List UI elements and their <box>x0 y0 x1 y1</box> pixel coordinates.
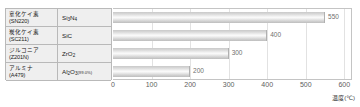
x-axis: 0100200300400500600 <box>113 80 352 92</box>
material-formula: Si3N4 <box>62 14 77 21</box>
material-formula-cell: SiC <box>58 27 111 44</box>
material-formula: ZrO2 <box>62 50 75 57</box>
plot-area: 550400300200 <box>113 8 352 80</box>
bar <box>113 48 229 59</box>
material-formula-cell: ZrO2 <box>58 45 111 62</box>
x-tick-label: 400 <box>261 81 273 88</box>
x-tick-label: 100 <box>146 81 158 88</box>
bar-value-label: 200 <box>193 67 204 74</box>
material-name-cell: ジルコニア (Z201N) <box>6 45 58 62</box>
bar-row: 300 <box>113 45 351 63</box>
bar-value-label: 550 <box>328 13 339 20</box>
bar <box>113 12 325 23</box>
x-tick-label: 500 <box>300 81 312 88</box>
bar-value-label: 300 <box>232 49 243 56</box>
material-name-line2: (SC211) <box>9 36 57 42</box>
x-tick-label: 300 <box>223 81 235 88</box>
material-name-line2: (Z201N) <box>9 54 57 60</box>
x-tick-label: 0 <box>111 81 115 88</box>
material-name-line2: (A479) <box>9 72 57 78</box>
material-name-cell: 窒化ケイ素 (SN220) <box>6 9 58 26</box>
bar <box>113 66 190 77</box>
material-formula: SiC <box>62 32 72 39</box>
chart-figure: 窒化ケイ素 (SN220) Si3N4 炭化ケイ素 (SC211) SiC ジル… <box>0 0 360 107</box>
material-table: 窒化ケイ素 (SN220) Si3N4 炭化ケイ素 (SC211) SiC ジル… <box>5 8 112 80</box>
table-row: 炭化ケイ素 (SC211) SiC <box>6 27 111 45</box>
table-row: ジルコニア (Z201N) ZrO2 <box>6 45 111 63</box>
bar <box>113 30 267 41</box>
material-formula-cell: Si3N4 <box>58 9 111 26</box>
material-name-cell: 炭化ケイ素 (SC211) <box>6 27 58 44</box>
x-tick-label: 200 <box>184 81 196 88</box>
material-name-cell: アルミナ (A479) <box>6 63 58 80</box>
bar-row: 550 <box>113 9 351 27</box>
material-name-line2: (SN220) <box>9 18 57 24</box>
table-row: アルミナ (A479) Al2O3(99.0%) <box>6 63 111 81</box>
x-axis-label: 温度(℃) <box>332 93 355 102</box>
x-tick-label: 600 <box>338 81 350 88</box>
material-formula-cell: Al2O3(99.0%) <box>58 63 111 80</box>
table-row: 窒化ケイ素 (SN220) Si3N4 <box>6 9 111 27</box>
material-formula: Al2O3(99.0%) <box>62 68 92 75</box>
bar-row: 400 <box>113 27 351 45</box>
bar-value-label: 400 <box>270 31 281 38</box>
bar-row: 200 <box>113 63 351 81</box>
